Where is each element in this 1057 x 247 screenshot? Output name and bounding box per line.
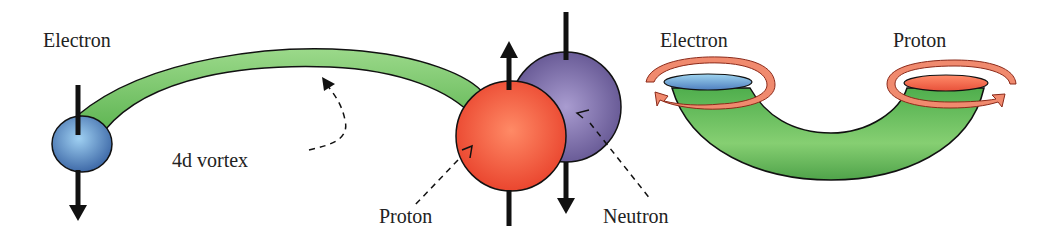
vortex-pointer-arrowhead-icon bbox=[322, 77, 335, 91]
left-electron-label: Electron bbox=[43, 30, 111, 50]
electron-sphere bbox=[52, 116, 112, 172]
electron-cap bbox=[664, 74, 752, 90]
right-electron-label: Electron bbox=[660, 30, 728, 50]
proton-sphere bbox=[456, 81, 566, 191]
proton-pointer-line bbox=[415, 160, 458, 205]
neutron-pointer-line bbox=[590, 123, 651, 200]
left-diagram bbox=[52, 12, 651, 226]
left-proton-label: Proton bbox=[379, 206, 432, 226]
right-proton-label: Proton bbox=[893, 30, 946, 50]
proton-cap bbox=[904, 75, 988, 91]
vortex-label: 4d vortex bbox=[172, 150, 248, 170]
left-neutron-label: Neutron bbox=[603, 206, 669, 226]
vortex-tube bbox=[78, 49, 485, 130]
right-diagram bbox=[646, 57, 1016, 180]
vortex-pointer-arrow bbox=[309, 85, 346, 150]
